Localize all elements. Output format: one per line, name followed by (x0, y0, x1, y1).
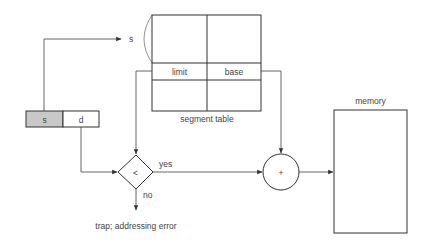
offset-arrow (81, 127, 117, 172)
segment-index-label: s (129, 34, 133, 44)
base-arrow (261, 71, 281, 153)
segment-index-arrow (44, 39, 121, 111)
segmentation-diagram: s d s limit base segment table < yes no … (0, 0, 430, 246)
comparator-symbol: < (133, 168, 138, 178)
no-label: no (143, 190, 153, 200)
adder: + (263, 154, 299, 190)
comparator: < (118, 155, 153, 189)
limit-arrow (136, 71, 152, 154)
index-brace-arc (144, 15, 152, 63)
logical-address: s d (26, 111, 99, 127)
yes-label: yes (159, 159, 172, 169)
memory: memory (334, 96, 407, 233)
offset-field-label: d (79, 115, 84, 125)
segment-table: limit base segment table (152, 15, 261, 124)
adder-symbol: + (279, 168, 284, 178)
base-cell: base (225, 67, 244, 77)
memory-label: memory (355, 96, 386, 106)
limit-cell: limit (172, 67, 188, 77)
segment-table-label: segment table (180, 114, 234, 124)
trap-label: trap; addressing error (95, 221, 176, 231)
segment-field-label: s (42, 115, 46, 125)
